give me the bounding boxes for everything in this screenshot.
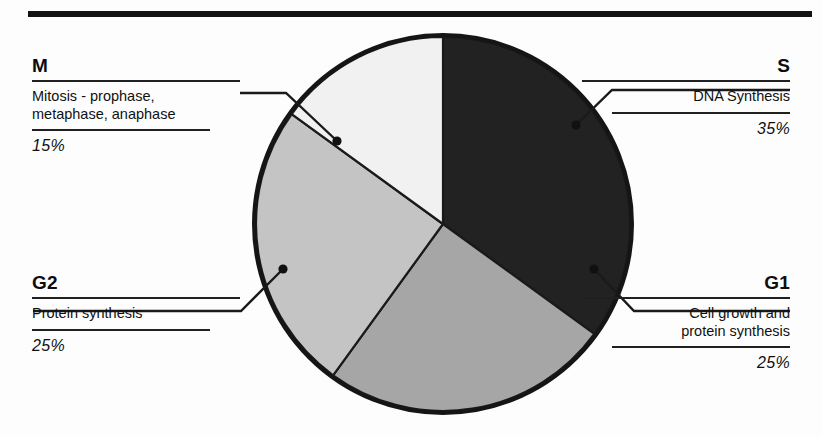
callout-s-key: S [582,55,790,76]
callout-m-description: Mitosis - prophase, metaphase, anaphase [32,82,240,129]
callout-g1-description: Cell growth and protein synthesis [582,299,790,346]
callout-m-key: M [32,55,240,76]
top-divider-rule [28,11,812,17]
callout-g2-description: Protein synthesis [32,299,240,329]
callout-m-percent: 15% [32,131,240,155]
callout-s-percent: 35% [582,114,790,138]
callout-g2: G2 Protein synthesis 25% [32,272,240,355]
pie-chart [250,31,636,417]
pie-chart-svg [250,31,636,417]
callout-g2-key: G2 [32,272,240,293]
pie-slice-group [256,37,630,411]
callout-s-description: DNA Synthesis [582,82,790,112]
callout-g1: G1 Cell growth and protein synthesis 25% [582,272,790,372]
callout-s: S DNA Synthesis 35% [582,55,790,138]
callout-g1-percent: 25% [582,348,790,372]
callout-m: M Mitosis - prophase, metaphase, anaphas… [32,55,240,155]
pie-chart-figure: M Mitosis - prophase, metaphase, anaphas… [0,0,822,436]
callout-g1-key: G1 [582,272,790,293]
callout-g2-percent: 25% [32,331,240,355]
